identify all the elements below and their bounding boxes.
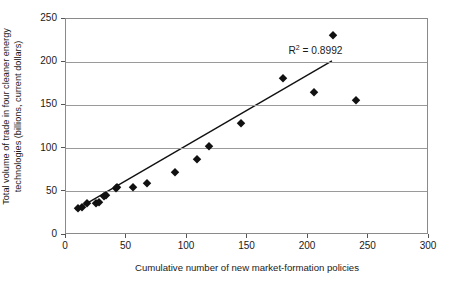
y-tick-label: 200 — [17, 55, 57, 66]
x-tick-label: 50 — [106, 240, 146, 251]
x-tick-mark — [246, 234, 247, 238]
y-axis-title-container: Total volume of trade in four cleaner en… — [0, 0, 30, 240]
gridline-y — [66, 62, 427, 63]
y-axis-title-line2: technologies (billions, current dollars) — [12, 0, 24, 233]
x-tick-label: 0 — [45, 240, 85, 251]
gridline-y — [66, 148, 427, 149]
y-tick-label: 150 — [17, 98, 57, 109]
x-axis-title: Cumulative number of new market-formatio… — [65, 262, 429, 273]
trend-line — [66, 19, 427, 233]
x-tick-label: 200 — [287, 240, 327, 251]
x-tick-mark — [186, 234, 187, 238]
y-tick-label: 50 — [17, 185, 57, 196]
x-tick-mark — [307, 234, 308, 238]
x-tick-mark — [125, 234, 126, 238]
x-tick-mark — [367, 234, 368, 238]
plot-area — [65, 18, 428, 234]
y-tick-mark — [61, 61, 65, 62]
r-squared-value: = 0.8992 — [300, 45, 343, 56]
x-tick-mark — [65, 234, 66, 238]
scatter-chart-figure: Total volume of trade in four cleaner en… — [0, 0, 449, 290]
gridline-y — [66, 191, 427, 192]
x-tick-label: 150 — [227, 240, 267, 251]
y-tick-label: 0 — [17, 228, 57, 239]
x-tick-label: 100 — [166, 240, 206, 251]
y-tick-mark — [61, 190, 65, 191]
x-tick-mark — [428, 234, 429, 238]
y-tick-mark — [61, 147, 65, 148]
y-axis-title-line1: Total volume of trade in four cleaner en… — [0, 0, 12, 233]
y-tick-mark — [61, 104, 65, 105]
y-axis-title: Total volume of trade in four cleaner en… — [0, 0, 24, 233]
y-tick-label: 250 — [17, 12, 57, 23]
x-tick-label: 250 — [348, 240, 388, 251]
x-tick-label: 300 — [408, 240, 448, 251]
y-tick-label: 100 — [17, 142, 57, 153]
r-squared-annotation: R2 = 0.8992 — [288, 44, 342, 56]
y-tick-mark — [61, 18, 65, 19]
gridline-y — [66, 105, 427, 106]
